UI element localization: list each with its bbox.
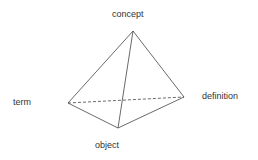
edge-concept-definition xyxy=(133,31,184,97)
edge-object-definition xyxy=(118,97,184,128)
tetrahedron-edges xyxy=(0,0,258,160)
label-concept: concept xyxy=(112,9,144,19)
label-object: object xyxy=(95,140,119,150)
label-definition: definition xyxy=(202,91,238,101)
tetrahedron-diagram: concept term definition object xyxy=(0,0,258,160)
label-term: term xyxy=(13,97,31,107)
edge-term-definition xyxy=(68,97,184,103)
edge-term-object xyxy=(68,103,118,128)
